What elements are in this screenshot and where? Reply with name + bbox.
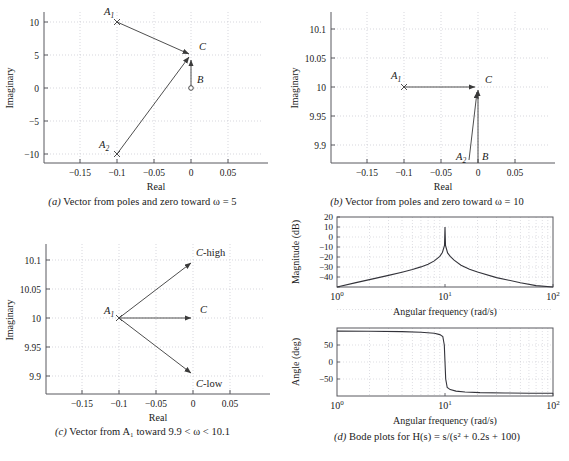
panel-d-caption-prefix: (d) bbox=[334, 431, 346, 442]
svg-text:−50: −50 bbox=[319, 374, 334, 384]
svg-text:0: 0 bbox=[329, 232, 334, 242]
svg-text:102: 102 bbox=[546, 399, 560, 411]
svg-text:C: C bbox=[200, 304, 208, 315]
magnitude-ylabel: Magnitude (dB) bbox=[290, 220, 302, 284]
svg-text:−10: −10 bbox=[319, 242, 334, 252]
angle-y-tick-labels: 50 0 −50 bbox=[319, 340, 334, 384]
panel-d-caption: (d) Bode plots for H(s) = s/(s² + 0.2s +… bbox=[285, 431, 569, 442]
panel-c-plot: 10.1 10.05 10 9.95 9.9 −0.15 −0.1 −0.05 … bbox=[0, 230, 285, 425]
svg-text:10.05: 10.05 bbox=[20, 285, 42, 295]
svg-text:−30: −30 bbox=[319, 262, 334, 272]
panel-d-caption-text: Bode plots for H(s) = s/(s² + 0.2s + 100… bbox=[349, 431, 520, 442]
svg-text:A1: A1 bbox=[103, 305, 114, 319]
svg-text:C-low: C-low bbox=[196, 378, 223, 389]
svg-text:0: 0 bbox=[191, 399, 196, 409]
svg-text:−0.15: −0.15 bbox=[71, 399, 93, 409]
panel-a-ylabel: Imaginary bbox=[4, 67, 15, 108]
svg-text:9.9: 9.9 bbox=[314, 141, 326, 151]
zero-marker-b bbox=[189, 86, 194, 91]
svg-text:0.05: 0.05 bbox=[222, 399, 239, 409]
panel-c-caption-text: Vector from A₁ toward 9.9 < ω < 10.1 bbox=[69, 426, 230, 437]
x-tick-labels: −0.15 −0.1 −0.05 0 0.05 bbox=[71, 399, 239, 409]
vector-arrows bbox=[404, 87, 478, 163]
svg-text:−5: −5 bbox=[29, 117, 39, 127]
axis-lines bbox=[46, 244, 270, 394]
axis-lines bbox=[331, 12, 555, 163]
svg-text:10: 10 bbox=[30, 18, 40, 28]
axis-ticks bbox=[46, 260, 230, 394]
svg-text:100: 100 bbox=[330, 290, 344, 302]
svg-text:5: 5 bbox=[34, 51, 39, 61]
svg-text:−0.05: −0.05 bbox=[430, 168, 452, 178]
svg-text:0: 0 bbox=[189, 168, 194, 178]
svg-text:−0.1: −0.1 bbox=[395, 168, 412, 178]
svg-text:−0.1: −0.1 bbox=[110, 399, 127, 409]
svg-text:9.9: 9.9 bbox=[29, 372, 41, 382]
svg-text:101: 101 bbox=[438, 399, 452, 411]
axis-lines bbox=[44, 12, 268, 163]
panel-a-caption-prefix: (a) bbox=[48, 196, 60, 207]
svg-text:10.1: 10.1 bbox=[24, 256, 41, 266]
svg-text:C: C bbox=[199, 41, 207, 52]
figure-container: 10 5 0 −5 −10 −0.15 −0.1 −0.05 0 0.05 A1… bbox=[0, 0, 569, 461]
panel-a-xlabel: Real bbox=[147, 181, 166, 192]
svg-text:10: 10 bbox=[324, 222, 334, 232]
panel-a: 10 5 0 −5 −10 −0.15 −0.1 −0.05 0 0.05 A1… bbox=[0, 0, 285, 230]
svg-text:10: 10 bbox=[32, 314, 42, 324]
panel-a-caption-text: Vector from poles and zero toward ω = 5 bbox=[63, 196, 236, 207]
panel-d-plot: 20 10 0 −10 −20 −30 −40 100 101 102 Angu… bbox=[285, 205, 569, 431]
angle-x-tick-labels: 100 101 102 bbox=[330, 399, 560, 411]
svg-text:−20: −20 bbox=[319, 252, 334, 262]
panel-b: 10.1 10.05 10 9.95 9.9 −0.15 −0.1 −0.05 … bbox=[285, 0, 569, 230]
svg-text:10.05: 10.05 bbox=[305, 54, 327, 64]
svg-text:−10: −10 bbox=[24, 150, 39, 160]
svg-text:B: B bbox=[197, 74, 204, 85]
svg-text:B: B bbox=[482, 151, 489, 162]
magnitude-x-tick-labels: 100 101 102 bbox=[330, 290, 560, 302]
svg-text:50: 50 bbox=[324, 340, 334, 350]
svg-text:0: 0 bbox=[329, 357, 334, 367]
angle-ylabel: Angle (deg) bbox=[290, 338, 302, 386]
grid-lines bbox=[331, 12, 549, 163]
panel-a-plot: 10 5 0 −5 −10 −0.15 −0.1 −0.05 0 0.05 A1… bbox=[0, 0, 285, 195]
svg-text:102: 102 bbox=[546, 290, 560, 302]
svg-text:A2: A2 bbox=[455, 151, 466, 165]
x-tick-labels: −0.15 −0.1 −0.05 0 0.05 bbox=[356, 168, 524, 178]
panel-b-plot: 10.1 10.05 10 9.95 9.9 −0.15 −0.1 −0.05 … bbox=[285, 0, 569, 195]
panel-d: 20 10 0 −10 −20 −30 −40 100 101 102 Angu… bbox=[285, 205, 569, 461]
vector-arrows bbox=[119, 263, 191, 373]
panel-c-caption-prefix: (c) bbox=[55, 426, 67, 437]
svg-text:C: C bbox=[485, 74, 493, 85]
x-tick-labels: −0.15 −0.1 −0.05 0 0.05 bbox=[69, 168, 237, 178]
svg-text:−0.05: −0.05 bbox=[145, 399, 167, 409]
svg-text:A1: A1 bbox=[390, 70, 401, 84]
panel-c: 10.1 10.05 10 9.95 9.9 −0.15 −0.1 −0.05 … bbox=[0, 230, 285, 461]
svg-text:10: 10 bbox=[317, 83, 327, 93]
svg-text:9.95: 9.95 bbox=[309, 112, 326, 122]
svg-text:A2: A2 bbox=[98, 139, 109, 153]
svg-text:−0.15: −0.15 bbox=[69, 168, 91, 178]
panel-b-ylabel: Imaginary bbox=[289, 67, 300, 108]
svg-text:0: 0 bbox=[34, 84, 39, 94]
panel-c-xlabel: Real bbox=[149, 412, 168, 423]
svg-text:A1: A1 bbox=[103, 6, 114, 20]
panel-c-ylabel: Imaginary bbox=[4, 299, 15, 340]
svg-text:0.05: 0.05 bbox=[220, 168, 237, 178]
bode-angle-subplot bbox=[337, 328, 553, 396]
svg-text:−40: −40 bbox=[319, 272, 334, 282]
y-tick-labels: 10.1 10.05 10 9.95 9.9 bbox=[305, 25, 327, 151]
axis-ticks bbox=[331, 29, 515, 163]
angle-xlabel: Angular frequency (rad/s) bbox=[393, 415, 497, 427]
svg-text:0.05: 0.05 bbox=[507, 168, 524, 178]
grid-lines bbox=[46, 244, 264, 394]
svg-text:−0.1: −0.1 bbox=[108, 168, 125, 178]
svg-text:9.95: 9.95 bbox=[24, 343, 41, 353]
panel-b-xlabel: Real bbox=[434, 181, 453, 192]
magnitude-xlabel: Angular frequency (rad/s) bbox=[393, 306, 497, 318]
point-labels: A1 A2 B C bbox=[390, 70, 493, 165]
panel-a-caption: (a) Vector from poles and zero toward ω … bbox=[0, 196, 285, 207]
grid-lines bbox=[44, 12, 262, 163]
svg-text:−0.15: −0.15 bbox=[356, 168, 378, 178]
svg-text:C-high: C-high bbox=[196, 247, 226, 258]
svg-text:20: 20 bbox=[324, 212, 334, 222]
